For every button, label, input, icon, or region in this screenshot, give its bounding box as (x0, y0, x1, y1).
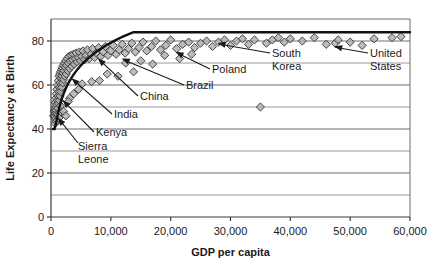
x-axis-tick-label: 30,000 (214, 225, 248, 237)
x-axis-tick-label: 10,000 (94, 225, 128, 237)
annotation-label: China (140, 90, 170, 102)
annotation-label: Sierra (78, 140, 108, 152)
x-axis-tick-label: 40,000 (274, 225, 308, 237)
y-axis-title: Life Expectancy at Birth (4, 55, 16, 181)
x-axis-tick-label: 0 (48, 225, 54, 237)
annotation-label: India (114, 108, 139, 120)
x-axis-title: GDP per capita (191, 246, 271, 258)
annotation-label: States (370, 60, 402, 72)
chart-figure: 020406080010,00020,00030,00040,00050,000… (0, 0, 433, 268)
annotation-label: Brazil (186, 79, 214, 91)
annotation-label: South (272, 47, 301, 59)
y-axis-tick-label: 0 (38, 211, 44, 223)
annotation-label: Kenya (96, 126, 128, 138)
annotation-label: Poland (212, 63, 246, 75)
x-axis-tick-label: 50,000 (333, 225, 367, 237)
y-axis-tick-label: 40 (32, 123, 44, 135)
y-axis-tick-label: 60 (32, 79, 44, 91)
y-axis-tick-label: 80 (32, 35, 44, 47)
x-axis-tick-label: 60,000 (393, 225, 427, 237)
annotation-label: United (370, 47, 402, 59)
annotation-label: Korea (272, 60, 302, 72)
scatter-plot-svg: 020406080010,00020,00030,00040,00050,000… (0, 0, 433, 268)
annotation-label: Leone (78, 153, 109, 165)
y-axis-tick-label: 20 (32, 167, 44, 179)
x-axis-tick-label: 20,000 (154, 225, 188, 237)
